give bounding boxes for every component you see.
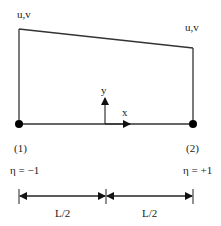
dimension-right-label: L/2 bbox=[142, 207, 157, 219]
node-2-dot bbox=[189, 120, 197, 128]
x-axis-label: x bbox=[122, 106, 128, 118]
element-outline bbox=[19, 29, 193, 124]
right-dof-label: u,v bbox=[185, 21, 199, 33]
node-2-label: (2) bbox=[186, 142, 199, 155]
node-1-label: (1) bbox=[14, 142, 27, 155]
y-axis-label: y bbox=[101, 84, 107, 96]
left-dof-label: u,v bbox=[17, 8, 31, 20]
dimension-left-label: L/2 bbox=[55, 207, 70, 219]
node-1-dot bbox=[15, 120, 23, 128]
node-1-eta: η = −1 bbox=[10, 164, 39, 176]
beam-element-diagram: u,v u,v y x (1) (2) η = −1 η = +1 L/2 L/… bbox=[0, 0, 221, 226]
dimension-lines bbox=[19, 189, 193, 204]
node-2-eta: η = +1 bbox=[183, 164, 212, 176]
